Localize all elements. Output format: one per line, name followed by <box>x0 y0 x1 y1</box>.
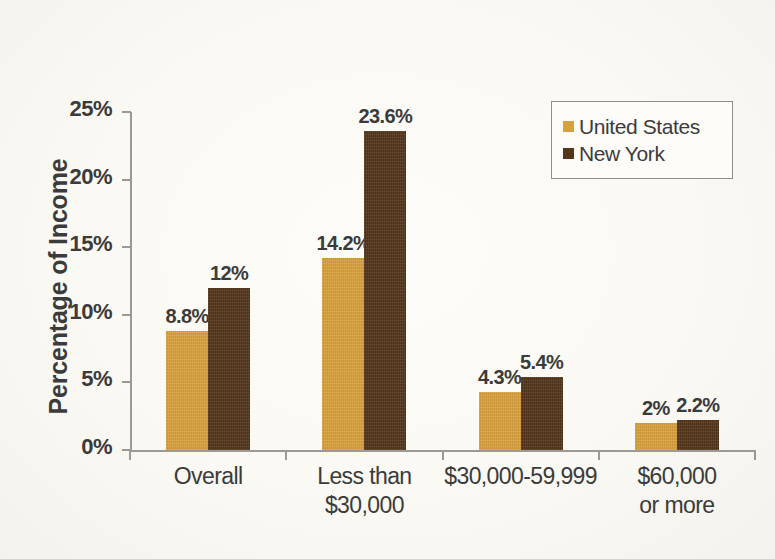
bar-new-york[interactable] <box>677 420 719 450</box>
bar-value-label: 5.4% <box>507 351 577 374</box>
y-axis-line <box>130 112 132 451</box>
y-axis-tick-label: 20% <box>44 164 112 190</box>
y-axis-tick <box>122 381 131 383</box>
bar-united-states[interactable] <box>166 331 208 450</box>
y-axis-tick <box>122 111 131 113</box>
legend-item-new-york: New York <box>563 140 722 167</box>
y-axis-tick-label: 25% <box>44 96 112 122</box>
y-axis-tick-label: 15% <box>44 231 112 257</box>
y-axis-tick-label-wrap: 20% <box>44 179 112 181</box>
y-axis-tick-label-wrap: 5% <box>44 381 112 383</box>
bar-new-york[interactable] <box>364 131 406 450</box>
bar-value-label: 12% <box>194 262 264 285</box>
x-axis-tick <box>442 450 444 460</box>
bar-united-states[interactable] <box>322 258 364 450</box>
legend-item-united-states: United States <box>563 113 722 140</box>
x-axis-category-label: $60,000 or more <box>587 462 767 520</box>
x-axis-tick <box>285 450 287 460</box>
legend-label-new-york: New York <box>579 142 665 166</box>
bar-value-label: 23.6% <box>350 105 420 128</box>
bar-chart: Percentage of Income 0%5%10%15%20%25% 8.… <box>0 0 775 559</box>
y-axis-tick-label-wrap: 25% <box>44 111 112 113</box>
y-axis-tick-label: 0% <box>44 434 112 460</box>
x-axis-tick <box>754 450 756 460</box>
x-axis-tick <box>129 450 131 460</box>
bar-new-york[interactable] <box>521 377 563 450</box>
x-axis-category-label: Less than $30,000 <box>274 462 454 520</box>
bar-value-label: 2.2% <box>663 394 733 417</box>
y-axis-tick-label: 10% <box>44 299 112 325</box>
bar-new-york[interactable] <box>208 288 250 450</box>
x-axis-category-label: $30,000-59,999 <box>431 462 611 491</box>
bar-united-states[interactable] <box>635 423 677 450</box>
legend-label-united-states: United States <box>579 115 700 139</box>
y-axis-tick <box>122 314 131 316</box>
bar-united-states[interactable] <box>479 392 521 450</box>
y-axis-tick-label-wrap: 15% <box>44 246 112 248</box>
y-axis-tick <box>122 246 131 248</box>
y-axis-tick-label-wrap: 10% <box>44 314 112 316</box>
x-axis-category-label: Overall <box>118 462 298 491</box>
legend: United States New York <box>551 101 733 179</box>
y-axis-tick-label-wrap: 0% <box>44 449 112 451</box>
y-axis-tick <box>122 179 131 181</box>
y-axis-tick-label: 5% <box>44 366 112 392</box>
x-axis-tick <box>598 450 600 460</box>
legend-swatch-icon-united-states <box>563 121 574 132</box>
legend-swatch-icon-new-york <box>563 148 574 159</box>
